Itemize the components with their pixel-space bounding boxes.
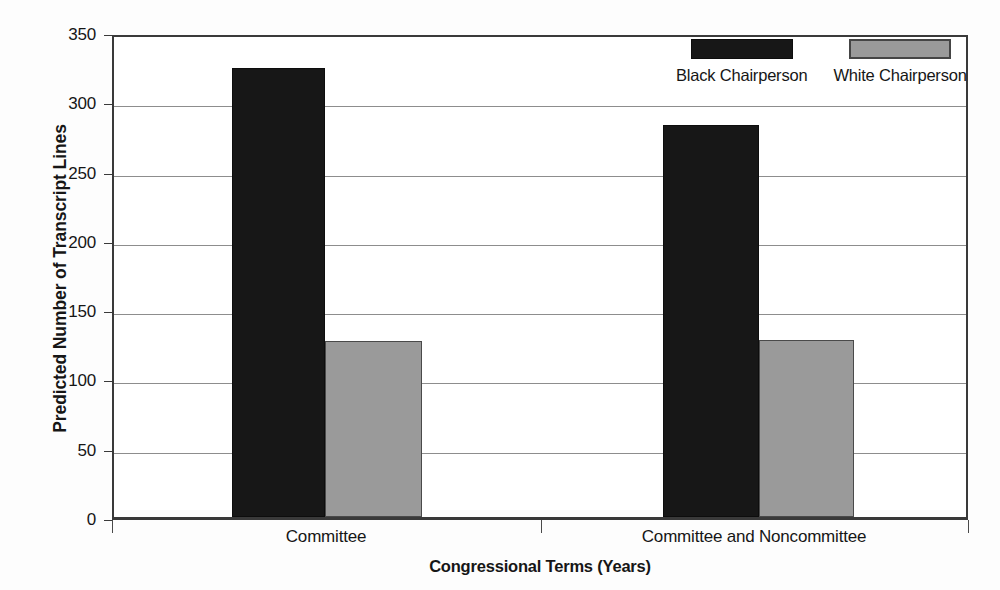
y-axis-tick-label: 0 xyxy=(26,510,96,530)
legend: Black Chairperson White Chairperson xyxy=(676,39,968,101)
x-axis-tick-mark xyxy=(541,520,542,533)
bar xyxy=(663,125,759,517)
y-axis-tick-label: 100 xyxy=(26,371,96,391)
bar xyxy=(759,340,854,517)
x-axis-category-label: Committee and Noncommittee xyxy=(554,527,954,547)
y-axis-tick-label: 200 xyxy=(26,233,96,253)
bar-chart-figure: Predicted Number of Transcript Lines 050… xyxy=(0,0,1000,590)
x-axis-category-label: Committee xyxy=(126,527,526,547)
legend-swatch-black-chairperson xyxy=(691,39,793,59)
y-axis-tick-label: 150 xyxy=(26,302,96,322)
x-axis-tick-mark xyxy=(112,520,113,533)
legend-entry-white-chairperson: White Chairperson xyxy=(833,39,966,85)
y-axis-tick-labels: 050100150200250300350 xyxy=(0,0,96,590)
legend-label-black-chairperson: Black Chairperson xyxy=(676,66,807,85)
x-axis-title: Congressional Terms (Years) xyxy=(112,557,968,576)
bar xyxy=(325,341,422,517)
legend-entry-black-chairperson: Black Chairperson xyxy=(676,39,807,85)
y-axis-tick-label: 50 xyxy=(26,441,96,461)
y-axis-tick-label: 350 xyxy=(26,25,96,45)
x-axis-tick-mark xyxy=(968,520,969,533)
plot-area: Black Chairperson White Chairperson xyxy=(112,35,968,520)
bar xyxy=(232,68,325,517)
y-axis-tick-label: 250 xyxy=(26,164,96,184)
legend-swatch-white-chairperson xyxy=(849,39,951,59)
legend-label-white-chairperson: White Chairperson xyxy=(833,66,966,85)
y-axis-tick-label: 300 xyxy=(26,94,96,114)
